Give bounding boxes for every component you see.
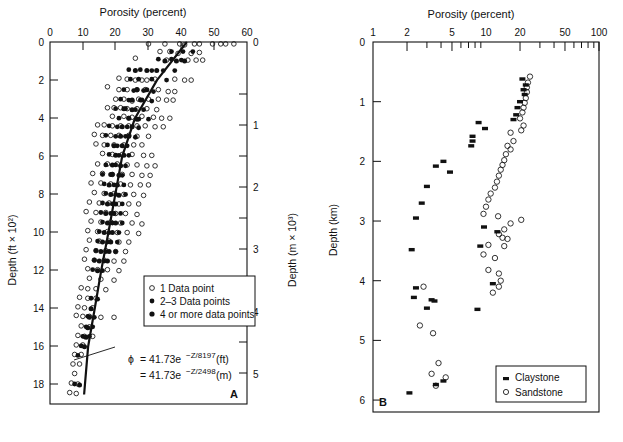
data-point	[511, 138, 516, 143]
data-point	[417, 323, 422, 328]
data-point	[98, 249, 103, 254]
data-point	[105, 105, 110, 110]
panel-a-equation-line1: = 41.73e	[140, 353, 181, 365]
panel-a-yticks-left	[50, 80, 58, 384]
panel-a-label: A	[230, 388, 238, 400]
data-point	[431, 299, 437, 302]
panel-b-legend-label-0: Claystone	[515, 372, 560, 383]
panel-a-equation-line2: = 41.73e	[140, 369, 181, 381]
data-point	[519, 128, 524, 133]
data-point	[74, 343, 79, 348]
data-point	[97, 229, 102, 234]
data-point	[77, 362, 82, 367]
data-point	[141, 153, 146, 158]
data-point	[121, 106, 126, 111]
data-point	[190, 49, 195, 54]
data-point	[508, 147, 513, 152]
data-point	[118, 211, 123, 216]
data-point	[169, 49, 174, 54]
data-point	[117, 268, 122, 273]
data-point	[502, 227, 507, 232]
data-point	[82, 257, 87, 262]
data-point	[483, 204, 488, 209]
data-point	[76, 305, 81, 310]
data-point	[510, 118, 516, 121]
panel-a-axis-title-top: Porosity (percent)	[100, 6, 187, 18]
data-point	[126, 153, 131, 158]
data-point	[117, 87, 122, 92]
data-point	[95, 268, 100, 273]
data-point	[81, 314, 86, 319]
panel-a-xtick-2: 20	[109, 27, 121, 38]
data-point	[105, 259, 110, 264]
data-point	[135, 212, 140, 217]
data-point	[419, 201, 425, 204]
panel-a-xtick-3: 30	[142, 27, 154, 38]
panel-b-ytick-label: 0	[359, 37, 365, 48]
data-point	[468, 144, 474, 147]
data-point	[182, 59, 187, 64]
data-point	[130, 172, 135, 177]
panel-b-ytick-label: 5	[359, 335, 365, 346]
data-point	[97, 259, 102, 264]
data-point	[110, 230, 115, 235]
data-point	[123, 211, 128, 216]
data-point	[82, 305, 87, 310]
data-point	[135, 163, 140, 168]
data-point	[194, 58, 199, 63]
data-point	[164, 98, 169, 103]
data-point	[100, 151, 105, 156]
data-point	[411, 296, 417, 299]
data-point	[503, 151, 508, 156]
data-point	[98, 210, 103, 215]
data-point	[107, 182, 112, 187]
data-point	[87, 238, 92, 243]
data-point	[90, 267, 95, 272]
panel-a-legend: 1 Data point 2–3 Data points 4 or more d…	[144, 276, 255, 326]
panel-a-axis-title-left: Depth (ft × 10²)	[6, 215, 18, 286]
panel-b-xtick-label: 2	[404, 27, 410, 38]
panel-a-equation-unit-ft: (ft)	[216, 353, 229, 365]
panel-a-equation-symbol: ϕ	[128, 353, 134, 365]
data-point	[145, 78, 150, 83]
data-point	[123, 249, 128, 254]
data-point	[95, 123, 100, 128]
panel-a-ytick-r0: 0	[253, 37, 259, 48]
data-point	[158, 49, 163, 54]
data-point	[149, 77, 154, 82]
data-point	[92, 190, 97, 195]
data-point	[126, 67, 131, 72]
data-point	[492, 185, 497, 190]
data-point	[112, 315, 117, 320]
data-point	[146, 117, 151, 122]
data-point	[100, 201, 105, 206]
data-point	[136, 77, 141, 82]
data-point	[126, 116, 131, 121]
data-point	[121, 87, 126, 92]
data-point	[440, 160, 446, 163]
data-point	[496, 173, 501, 178]
data-point	[100, 220, 105, 225]
data-point	[100, 172, 105, 177]
data-point	[72, 371, 77, 376]
panel-b-ytick-label: 6	[359, 395, 365, 406]
data-point	[496, 284, 501, 289]
data-point	[144, 87, 149, 92]
data-point	[89, 306, 94, 311]
panel-a-legend-label-1: 2–3 Data points	[160, 296, 230, 307]
panel-b-xticks	[407, 42, 599, 51]
data-point	[197, 50, 202, 55]
data-point	[95, 162, 100, 167]
data-point	[154, 107, 159, 112]
data-point	[107, 152, 112, 157]
data-point	[120, 221, 125, 226]
panel-b-xtick-label: 1	[370, 27, 376, 38]
data-point	[110, 162, 115, 167]
data-point	[76, 333, 81, 338]
panel-b-axis-title-left: Depth (km)	[327, 204, 339, 256]
data-point	[498, 167, 503, 172]
data-point	[164, 78, 169, 83]
data-point	[136, 231, 141, 236]
panel-a-legend-label-0: 1 Data point	[160, 283, 214, 294]
data-point	[99, 315, 104, 320]
